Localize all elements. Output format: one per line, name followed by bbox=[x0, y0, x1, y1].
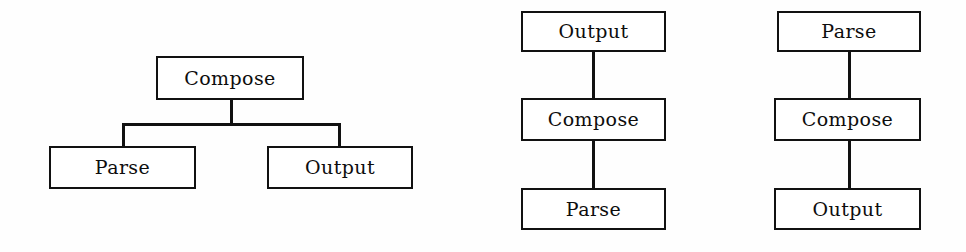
node-compose[interactable]: Compose bbox=[774, 98, 921, 141]
node-label-compose: Compose bbox=[548, 110, 639, 129]
node-label-parse: Parse bbox=[821, 22, 876, 41]
edge-compose-stem bbox=[230, 100, 233, 125]
node-output[interactable]: Output bbox=[521, 11, 666, 52]
node-label-compose: Compose bbox=[184, 69, 275, 88]
node-output[interactable]: Output bbox=[267, 146, 413, 189]
node-label-parse: Parse bbox=[95, 158, 150, 177]
diagram-chain-output-compose-parse: Output Compose Parse bbox=[460, 0, 710, 252]
edge-compose-to-parse bbox=[122, 123, 125, 147]
diagram-tree-hierarchy: Compose Parse Output bbox=[0, 0, 460, 252]
node-label-parse: Parse bbox=[566, 200, 621, 219]
edge-compose-to-output bbox=[848, 140, 851, 189]
node-output[interactable]: Output bbox=[774, 188, 921, 230]
edge-compose-to-parse bbox=[592, 140, 595, 189]
edge-output-to-compose bbox=[592, 51, 595, 99]
node-label-output: Output bbox=[559, 22, 629, 41]
node-compose[interactable]: Compose bbox=[521, 98, 666, 141]
edge-parse-to-compose bbox=[848, 51, 851, 99]
diagram-chain-parse-compose-output: Parse Compose Output bbox=[710, 0, 966, 252]
node-parse[interactable]: Parse bbox=[777, 11, 921, 52]
edge-compose-children-bar bbox=[122, 123, 341, 126]
node-parse[interactable]: Parse bbox=[521, 188, 666, 230]
edge-compose-to-output bbox=[338, 123, 341, 147]
node-parse[interactable]: Parse bbox=[49, 146, 196, 189]
node-label-output: Output bbox=[305, 158, 375, 177]
node-compose[interactable]: Compose bbox=[156, 56, 304, 100]
figure-canvas: Compose Parse Output Output Compose Pars… bbox=[0, 0, 966, 252]
node-label-output: Output bbox=[813, 200, 883, 219]
node-label-compose: Compose bbox=[802, 110, 893, 129]
